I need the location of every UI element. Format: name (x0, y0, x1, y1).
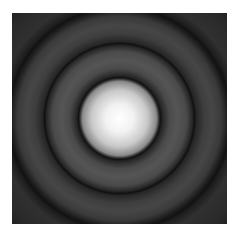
airy-disk-pattern (12, 13, 227, 224)
